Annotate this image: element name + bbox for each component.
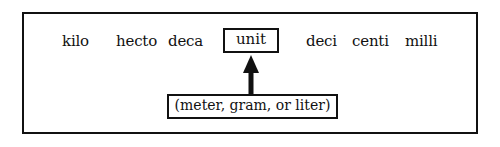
up-arrow-icon xyxy=(240,53,262,95)
prefix-hecto: hecto xyxy=(116,32,157,50)
unit-label: unit xyxy=(236,30,266,48)
prefix-centi: centi xyxy=(352,32,389,50)
prefix-milli: milli xyxy=(405,32,437,50)
base-units-label: (meter, gram, or liter) xyxy=(175,97,331,113)
prefix-kilo: kilo xyxy=(62,32,89,50)
prefix-deca: deca xyxy=(168,32,203,50)
prefix-deci: deci xyxy=(306,32,337,50)
unit-box: unit xyxy=(223,28,279,53)
base-units-box: (meter, gram, or liter) xyxy=(167,94,338,119)
